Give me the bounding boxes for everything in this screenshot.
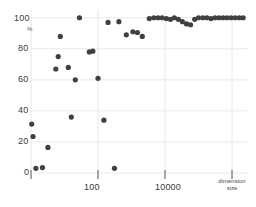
data-point xyxy=(73,77,78,82)
data-point xyxy=(140,34,145,39)
x-tick-label-10000: 10000 xyxy=(155,182,181,192)
data-point xyxy=(147,16,152,21)
y-tick-label-100: 100 xyxy=(14,13,30,23)
data-point xyxy=(56,54,61,59)
y-tick-label-80: 80 xyxy=(18,43,28,53)
x-axis-ticks xyxy=(31,170,232,179)
data-point xyxy=(124,32,129,37)
data-point xyxy=(33,166,38,171)
y-tick-label-20: 20 xyxy=(18,136,28,146)
data-point xyxy=(130,29,135,34)
data-point xyxy=(95,76,100,81)
data-point xyxy=(105,20,110,25)
y-tick-label-40: 40 xyxy=(18,105,28,115)
data-point xyxy=(69,115,74,120)
data-point xyxy=(58,34,63,39)
x-axis-title-line1: dimension xyxy=(208,178,256,185)
data-point xyxy=(77,15,82,20)
data-point xyxy=(101,118,106,123)
y-axis-unit-label: % xyxy=(27,26,32,32)
x-tick-label-100: 100 xyxy=(84,182,100,192)
data-point xyxy=(53,66,58,71)
y-tick-label-0: 0 xyxy=(24,167,29,177)
scatter-chart-figure: 100 % 80 60 40 20 0 100 10000 dimension … xyxy=(0,0,256,207)
data-point xyxy=(40,165,45,170)
data-point xyxy=(116,19,121,24)
data-point xyxy=(241,15,246,20)
data-points xyxy=(29,15,246,171)
gridlines-horizontal xyxy=(31,18,248,173)
data-point xyxy=(112,166,117,171)
data-point xyxy=(30,134,35,139)
data-point xyxy=(188,22,193,27)
data-point xyxy=(66,65,71,70)
x-axis-title-line2: size xyxy=(208,185,256,192)
data-point xyxy=(29,122,34,127)
data-point xyxy=(90,49,95,54)
x-axis-title: dimension size xyxy=(208,178,256,192)
data-point xyxy=(135,30,140,35)
data-point xyxy=(45,145,50,150)
y-tick-label-60: 60 xyxy=(18,74,28,84)
plot-area xyxy=(0,0,256,207)
